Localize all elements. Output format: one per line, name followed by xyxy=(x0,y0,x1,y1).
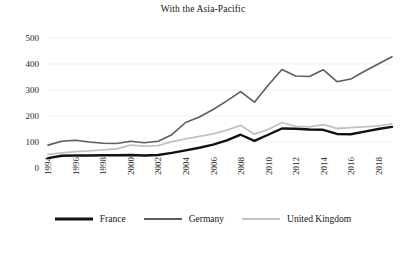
x-tick-label: 2014 xyxy=(319,157,329,176)
legend-swatch-france xyxy=(55,215,93,223)
x-tick-label: 2008 xyxy=(236,157,246,176)
x-axis-tick-labels: 1994199619982000200220042006200820102012… xyxy=(43,157,383,176)
y-tick-label: 500 xyxy=(26,33,40,43)
x-tick-label: 2018 xyxy=(374,157,384,176)
x-tick-label: 2000 xyxy=(126,157,136,176)
legend-label-germany: Germany xyxy=(189,214,224,224)
series-line-united-kingdom xyxy=(48,123,392,155)
x-tick-label: 2002 xyxy=(153,157,163,175)
legend-item-france[interactable]: France xyxy=(46,214,135,224)
y-tick-label: 100 xyxy=(26,137,40,147)
y-tick-label: 0 xyxy=(35,163,40,173)
chart-legend: France Germany United Kingdom xyxy=(0,214,406,224)
y-gridlines xyxy=(48,38,392,142)
x-tick-label: 1998 xyxy=(98,157,108,176)
legend-item-germany[interactable]: Germany xyxy=(135,214,233,224)
x-tick-label: 2006 xyxy=(209,157,219,176)
x-tick-label: 1996 xyxy=(71,157,81,176)
legend-label-france: France xyxy=(100,214,126,224)
x-tick-label: 2010 xyxy=(264,157,274,176)
legend-swatch-germany xyxy=(144,215,182,223)
x-tick-label: 2012 xyxy=(291,157,301,175)
x-tick-label: 2016 xyxy=(346,157,356,176)
legend-label-united-kingdom: United Kingdom xyxy=(287,214,351,224)
chart-figure: With the Asia-Pacific 0100200300400500 1… xyxy=(0,0,406,253)
y-tick-label: 200 xyxy=(26,111,40,121)
y-tick-label: 400 xyxy=(26,59,40,69)
y-tick-label: 300 xyxy=(26,85,40,95)
legend-item-united-kingdom[interactable]: United Kingdom xyxy=(233,214,360,224)
y-axis-tick-labels: 0100200300400500 xyxy=(26,33,40,173)
x-tick-label: 1994 xyxy=(43,157,53,176)
x-tick-label: 2004 xyxy=(181,157,191,176)
data-series-group xyxy=(48,57,392,158)
legend-swatch-united-kingdom xyxy=(242,215,280,223)
